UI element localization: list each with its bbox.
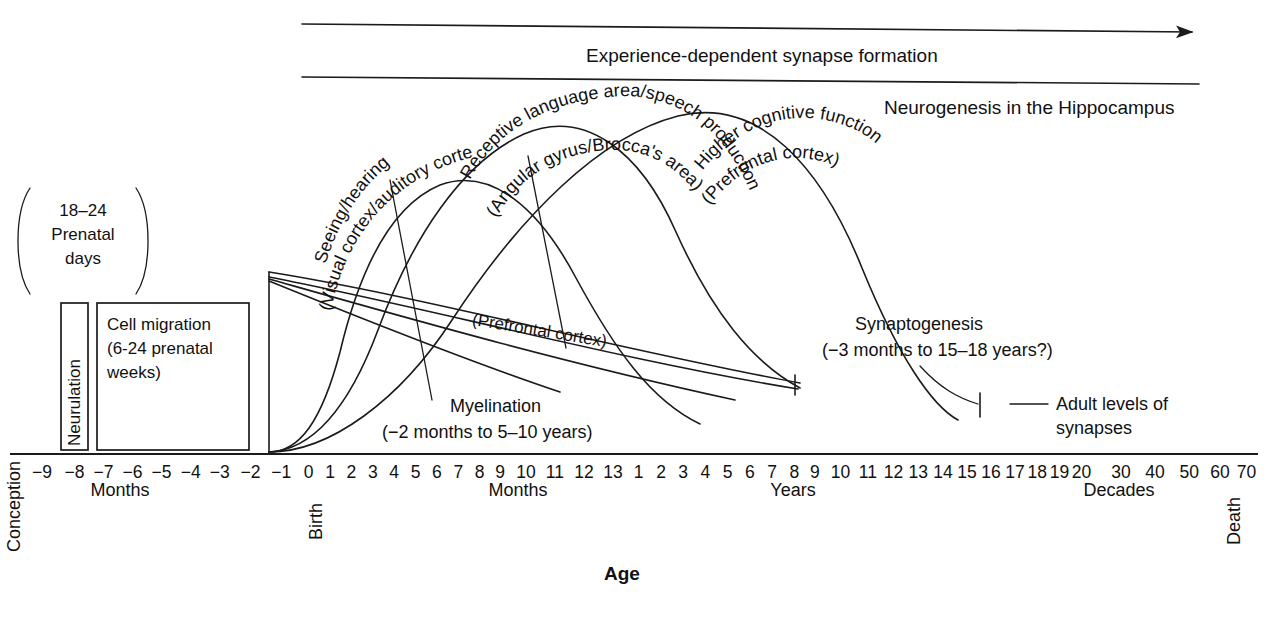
axis-tick-label: 2 [656, 462, 666, 482]
myelination-line1: Myelination [450, 396, 541, 416]
language-label-line2-textpath: (Angular gyrus/Brocca's area) [482, 134, 707, 220]
axis-tick-label: 11 [859, 462, 877, 482]
experience-dependent-label: Experience-dependent synapse formation [586, 45, 938, 66]
axis-tick-label: 14 [933, 462, 953, 482]
myelination-line-4 [269, 281, 560, 392]
axis-tick-label: 10 [516, 462, 536, 482]
axis-tick-label-group: −9−8−7−6−5−4−3−2−10123456789101112131234… [32, 462, 1257, 482]
cell-migration-line2: (6-24 prenatal [107, 339, 213, 358]
myelination-curve-group: (Prefrontal cortex) Myelination (−2 mont… [269, 272, 800, 452]
axis-tick-label: 8 [475, 462, 485, 482]
axis-title-age: Age [604, 563, 640, 584]
axis-group: −9−8−7−6−5−4−3−2−10123456789101112131234… [4, 454, 1258, 584]
axis-tick-label: 3 [368, 462, 378, 482]
axis-tick-label: 60 [1210, 462, 1230, 482]
axis-tick-label: 17 [1005, 462, 1024, 482]
axis-tick-label: 30 [1111, 462, 1131, 482]
synaptogenesis-line1: Synaptogenesis [855, 314, 983, 334]
experience-dependent-bottom-line [302, 77, 1199, 84]
adult-levels-line1: Adult levels of [1056, 394, 1169, 414]
axis-tick-label: 15 [957, 462, 976, 482]
bracket-left-paren [18, 188, 30, 294]
axis-tick-label: 12 [574, 462, 593, 482]
axis-tick-label: 13 [909, 462, 928, 482]
axis-tick-label: −9 [32, 462, 52, 482]
axis-tick-label: 70 [1237, 462, 1257, 482]
axis-label-conception: Conception [4, 461, 24, 552]
axis-tick-label: 7 [453, 462, 463, 482]
axis-tick-label: 12 [884, 462, 903, 482]
axis-tick-label: 7 [767, 462, 777, 482]
myelination-line-3 [269, 279, 735, 400]
prenatal-days-line3: days [65, 249, 101, 268]
language-label-line2: (Angular gyrus/Brocca's area) [482, 134, 707, 220]
axis-tick-label: 1 [634, 462, 644, 482]
axis-tick-label: −7 [94, 462, 114, 482]
axis-tick-label: −3 [210, 462, 230, 482]
axis-unit-years: Years [770, 480, 815, 500]
axis-tick-label: 50 [1180, 462, 1200, 482]
axis-tick-label: −4 [181, 462, 201, 482]
cell-migration-box-group: Cell migration (6-24 prenatal weeks) [97, 303, 249, 450]
prenatal-days-line1: 18–24 [59, 201, 106, 220]
axis-tick-label: 6 [432, 462, 442, 482]
axis-tick-label: 4 [389, 462, 399, 482]
cognitive-label-line1-textpath: Higher cognitive function [690, 102, 886, 173]
axis-tick-label: 4 [701, 462, 711, 482]
axis-tick-label: 19 [1050, 462, 1069, 482]
axis-tick-label: −5 [152, 462, 172, 482]
synaptogenesis-annotation-group: Synaptogenesis (−3 months to 15–18 years… [822, 314, 1053, 417]
adult-levels-annotation-group: Adult levels of synapses [1010, 394, 1169, 438]
axis-tick-label: 13 [603, 462, 622, 482]
axis-tick-label: −2 [241, 462, 261, 482]
adult-levels-line2: synapses [1056, 418, 1132, 438]
axis-tick-label: 8 [789, 462, 799, 482]
axis-tick-label: 1 [325, 462, 335, 482]
axis-tick-label: 6 [745, 462, 755, 482]
axis-tick-label: −6 [123, 462, 143, 482]
axis-tick-label: 2 [347, 462, 357, 482]
axis-tick-label: 5 [723, 462, 733, 482]
neurulation-box-group: Neurulation [61, 303, 88, 450]
bracket-right-paren [136, 188, 148, 294]
axis-tick-label: 18 [1027, 462, 1046, 482]
axis-tick-label: 20 [1072, 462, 1092, 482]
neurulation-label: Neurulation [65, 359, 84, 446]
axis-unit-months-postnatal: Months [488, 480, 547, 500]
cell-migration-line3: weeks) [106, 363, 161, 382]
prenatal-bracket-group: 18–24 Prenatal days [18, 188, 148, 294]
axis-tick-label: 10 [831, 462, 851, 482]
cognitive-label-line1: Higher cognitive function [690, 102, 886, 173]
axis-tick-label: 5 [411, 462, 421, 482]
axis-label-death: Death [1224, 497, 1244, 545]
sensory-leader-line [390, 180, 432, 400]
figure-canvas: Experience-dependent synapse formation N… [0, 0, 1272, 621]
axis-unit-decades: Decades [1083, 480, 1154, 500]
axis-tick-label: 0 [304, 462, 314, 482]
experience-dependent-top-line [302, 24, 1192, 32]
synaptogenesis-leader-line [920, 366, 978, 404]
axis-label-birth: Birth [306, 503, 326, 540]
axis-unit-months-prenatal: Months [90, 480, 149, 500]
synaptogenesis-curve-group: Seeing/hearing (Visual cortex/auditory c… [0, 0, 958, 452]
axis-tick-label: 11 [546, 462, 564, 482]
axis-tick-label: 9 [810, 462, 820, 482]
brain-development-figure: Experience-dependent synapse formation N… [0, 0, 1272, 621]
prefrontal-cortex-myelin-textpath: (Prefrontal cortex) [471, 310, 609, 351]
cell-migration-line1: Cell migration [107, 315, 211, 334]
prefrontal-cortex-myelin-label: (Prefrontal cortex) [471, 310, 609, 351]
myelination-line2: (−2 months to 5–10 years) [382, 422, 593, 442]
axis-tick-label: 40 [1145, 462, 1165, 482]
top-band-group: Experience-dependent synapse formation N… [302, 24, 1199, 118]
prenatal-days-line2: Prenatal [51, 225, 114, 244]
neurogenesis-label: Neurogenesis in the Hippocampus [884, 97, 1174, 118]
axis-tick-label: −8 [64, 462, 84, 482]
axis-tick-label: 9 [495, 462, 505, 482]
axis-tick-label: −1 [271, 462, 291, 482]
axis-tick-label: 16 [981, 462, 1000, 482]
synaptogenesis-line2: (−3 months to 15–18 years?) [822, 340, 1053, 360]
axis-tick-label: 3 [678, 462, 688, 482]
